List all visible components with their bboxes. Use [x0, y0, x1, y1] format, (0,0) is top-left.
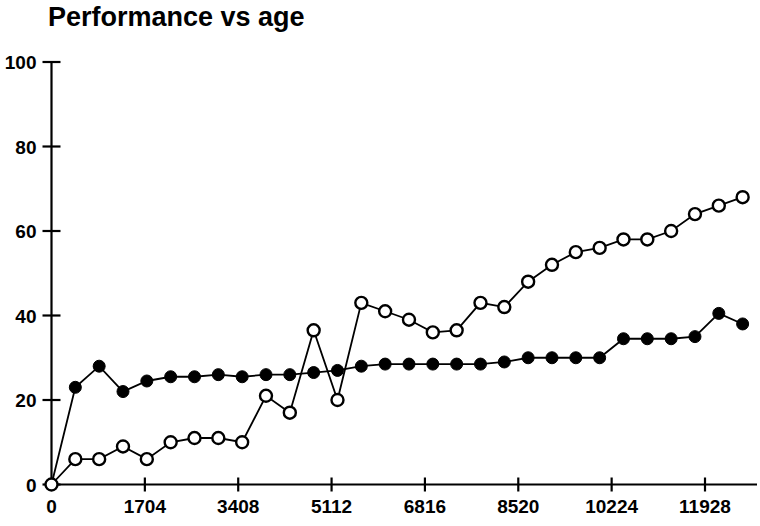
data-point-open-series: [355, 297, 367, 309]
data-point-filled-series: [522, 352, 534, 364]
data-point-open-series: [93, 453, 105, 465]
data-point-filled-series: [188, 371, 200, 383]
y-axis-tick-label: 80: [15, 137, 36, 158]
data-point-filled-series: [117, 386, 129, 398]
x-axis-tick-label: 10224: [585, 496, 638, 517]
data-point-filled-series: [498, 356, 510, 368]
data-point-open-series: [498, 301, 510, 313]
data-point-filled-series: [713, 307, 725, 319]
data-point-open-series: [570, 246, 582, 258]
data-point-open-series: [451, 324, 463, 336]
data-point-open-series: [308, 324, 320, 336]
data-point-filled-series: [93, 360, 105, 372]
data-point-filled-series: [403, 358, 415, 370]
data-point-open-series: [141, 453, 153, 465]
data-point-open-series: [641, 233, 653, 245]
data-point-open-series: [474, 297, 486, 309]
data-point-open-series: [427, 326, 439, 338]
data-point-open-series: [379, 305, 391, 317]
data-point-filled-series: [308, 367, 320, 379]
data-point-filled-series: [284, 369, 296, 381]
x-axis-tick-label: 8520: [497, 496, 539, 517]
y-axis-tick-label: 0: [26, 475, 37, 496]
data-point-filled-series: [617, 333, 629, 345]
data-point-filled-series: [212, 369, 224, 381]
y-axis-tick-label: 20: [15, 390, 36, 411]
data-point-filled-series: [474, 358, 486, 370]
data-point-filled-series: [379, 358, 391, 370]
x-axis-tick-label: 1704: [124, 496, 167, 517]
data-point-open-series: [665, 225, 677, 237]
data-point-filled-series: [260, 369, 272, 381]
chart-plot-area: 020406080100 017043408511268168520102241…: [0, 0, 760, 526]
data-point-filled-series: [141, 375, 153, 387]
data-point-open-series: [212, 432, 224, 444]
data-point-open-series: [403, 314, 415, 326]
x-axis-tick-label: 5112: [311, 496, 352, 517]
data-point-filled-series: [331, 364, 343, 376]
data-point-open-series: [617, 233, 629, 245]
data-point-filled-series: [546, 352, 558, 364]
data-point-filled-series: [165, 371, 177, 383]
x-axis-tick-label: 3408: [217, 496, 259, 517]
data-point-open-series: [236, 436, 248, 448]
data-point-open-series: [165, 436, 177, 448]
data-point-open-series: [69, 453, 81, 465]
x-axis: 0170434085112681685201022411928: [46, 478, 757, 517]
chart-container: Performance vs age 020406080100 01704340…: [0, 0, 760, 526]
data-point-filled-series: [427, 358, 439, 370]
series-line-filled-series: [52, 313, 743, 484]
data-point-open-series: [689, 208, 701, 220]
y-axis: 020406080100: [5, 52, 61, 496]
x-axis-tick-label: 0: [46, 496, 57, 517]
data-series-group: [46, 191, 749, 490]
data-point-filled-series: [665, 333, 677, 345]
y-axis-tick-label: 60: [15, 221, 36, 242]
series-line-open-series: [52, 197, 743, 484]
data-point-open-series: [46, 479, 58, 491]
data-point-open-series: [284, 407, 296, 419]
data-point-filled-series: [641, 333, 653, 345]
data-point-filled-series: [451, 358, 463, 370]
x-axis-tick-label: 11928: [679, 496, 731, 517]
data-point-open-series: [331, 394, 343, 406]
data-point-filled-series: [236, 371, 248, 383]
data-point-open-series: [260, 390, 272, 402]
data-point-filled-series: [594, 352, 606, 364]
data-point-filled-series: [69, 381, 81, 393]
data-point-filled-series: [689, 331, 701, 343]
data-point-open-series: [522, 276, 534, 288]
data-point-open-series: [737, 191, 749, 203]
x-axis-tick-label: 6816: [404, 496, 446, 517]
data-point-open-series: [188, 432, 200, 444]
data-point-open-series: [713, 200, 725, 212]
data-point-open-series: [117, 440, 129, 452]
data-point-filled-series: [355, 360, 367, 372]
data-point-open-series: [594, 242, 606, 254]
y-axis-tick-label: 100: [5, 52, 37, 73]
data-point-open-series: [546, 259, 558, 271]
data-point-filled-series: [737, 318, 749, 330]
data-point-filled-series: [570, 352, 582, 364]
y-axis-tick-label: 40: [15, 306, 36, 327]
